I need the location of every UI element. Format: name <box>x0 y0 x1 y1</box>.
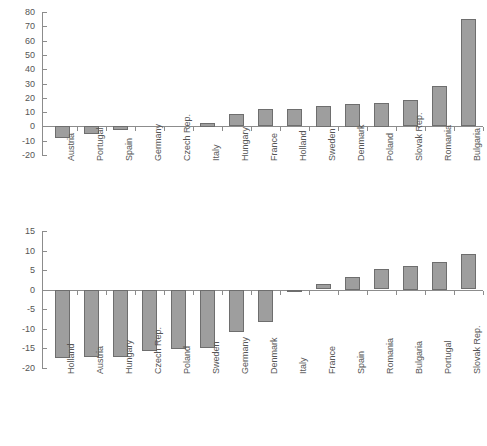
x-axis-tick <box>425 127 426 131</box>
y-axis-tick-label: 40 <box>2 65 35 74</box>
x-axis-category-label: Hungary <box>125 340 134 374</box>
x-axis-tick <box>280 127 281 131</box>
bar <box>316 284 331 289</box>
bar <box>287 109 302 126</box>
x-axis-tick <box>77 127 78 131</box>
x-axis-tick <box>106 127 107 131</box>
y-axis-tick <box>42 55 47 56</box>
x-axis-category-label: Denmark <box>270 337 279 374</box>
x-axis-category-label: Poland <box>183 346 192 374</box>
y-axis-tick-label: 70 <box>2 22 35 31</box>
bar <box>200 290 215 348</box>
bar <box>345 277 360 290</box>
x-axis-tick <box>425 291 426 295</box>
x-axis-tick <box>164 291 165 295</box>
y-axis-tick-label: -15 <box>2 344 35 353</box>
y-axis-tick <box>42 231 47 232</box>
x-axis-tick <box>193 127 194 131</box>
bar <box>461 19 476 126</box>
x-axis-category-label: Romania <box>386 338 395 374</box>
x-axis-category-label: Germany <box>241 337 250 374</box>
x-axis-category-label: France <box>328 346 337 374</box>
y-axis-tick <box>42 251 47 252</box>
y-axis-tick-label: 0 <box>2 122 35 131</box>
bar <box>200 123 215 127</box>
x-axis-tick <box>309 291 310 295</box>
bar <box>229 290 244 332</box>
y-axis-tick <box>42 69 47 70</box>
y-axis-tick <box>42 270 47 271</box>
x-axis-tick <box>454 127 455 131</box>
y-axis-tick-label: 10 <box>2 247 35 256</box>
bar <box>113 126 128 130</box>
x-axis-tick <box>77 291 78 295</box>
y-axis-tick <box>42 141 47 142</box>
x-axis-category-label: Slovak Rep. <box>415 112 424 161</box>
x-axis-tick <box>483 127 484 131</box>
y-axis-tick <box>42 348 47 349</box>
x-axis-category-label: Sweden <box>328 128 337 161</box>
x-axis-tick <box>396 291 397 295</box>
x-axis-category-label: France <box>270 133 279 161</box>
x-axis-category-label: Hungary <box>241 127 250 161</box>
x-axis-tick <box>396 127 397 131</box>
x-axis-category-label: Sweden <box>212 341 221 374</box>
x-axis-category-label: Spain <box>125 138 134 161</box>
x-axis-category-label: Portugal <box>96 127 105 161</box>
x-axis-tick <box>164 127 165 131</box>
bar <box>461 254 476 289</box>
bar <box>374 103 389 127</box>
x-axis-tick <box>135 291 136 295</box>
x-axis-category-label: Slovak Rep. <box>473 325 482 374</box>
x-axis-tick <box>338 291 339 295</box>
x-axis-tick <box>106 291 107 295</box>
x-axis-tick <box>280 291 281 295</box>
x-axis-tick <box>309 127 310 131</box>
bar <box>403 266 418 290</box>
y-axis-tick <box>42 41 47 42</box>
x-axis-tick <box>367 127 368 131</box>
x-axis-category-label: Italy <box>212 144 221 161</box>
y-axis-tick-label: -20 <box>2 364 35 373</box>
x-axis-category-label: Bulgaria <box>473 128 482 161</box>
x-axis-tick <box>454 291 455 295</box>
y-axis-tick-label: -20 <box>2 151 35 160</box>
x-axis-tick <box>483 291 484 295</box>
x-axis-category-label: Germany <box>154 124 163 161</box>
bar <box>258 290 273 322</box>
y-axis-tick <box>42 26 47 27</box>
y-axis-tick-label: -10 <box>2 137 35 146</box>
bar <box>258 109 273 126</box>
x-axis-category-label: Czech Rep. <box>154 327 163 374</box>
y-axis-tick-label: 30 <box>2 80 35 89</box>
bar <box>432 86 447 126</box>
y-axis-tick-label: 5 <box>2 266 35 275</box>
y-axis-tick-label: 0 <box>2 286 35 295</box>
x-axis-tick <box>222 127 223 131</box>
bar <box>374 269 389 289</box>
y-axis-tick <box>42 329 47 330</box>
y-axis-tick-label: -5 <box>2 305 35 314</box>
x-axis-category-label: Romania <box>444 125 453 161</box>
y-axis-tick <box>42 155 47 156</box>
y-axis-tick <box>42 12 47 13</box>
y-axis-tick-label: -10 <box>2 325 35 334</box>
y-axis-tick-label: 80 <box>2 8 35 17</box>
bar <box>229 114 244 126</box>
x-axis-tick <box>338 127 339 131</box>
x-axis-category-label: Holland <box>299 130 308 161</box>
y-axis-tick <box>42 112 47 113</box>
bar <box>171 290 186 349</box>
x-axis-tick <box>222 291 223 295</box>
x-axis-tick <box>135 127 136 131</box>
x-axis-category-label: Czech Rep. <box>183 114 192 161</box>
x-axis-tick <box>251 127 252 131</box>
x-axis-category-label: Holland <box>67 343 76 374</box>
y-axis-tick-label: 60 <box>2 37 35 46</box>
bar <box>287 290 302 292</box>
chart-panel-top: 80706050403020100-10-20AustriaPortugalSp… <box>0 0 487 223</box>
y-axis-tick <box>42 309 47 310</box>
x-axis-tick <box>193 291 194 295</box>
y-axis-tick-label: 15 <box>2 227 35 236</box>
bar <box>316 106 331 127</box>
